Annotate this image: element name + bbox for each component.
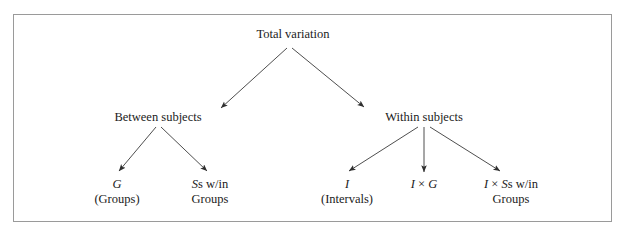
- node-i-by-ss-caption: Groups: [484, 192, 538, 207]
- symbol-g: G: [428, 177, 437, 191]
- node-between-subjects: Between subjects: [114, 110, 201, 125]
- symbol-g: G: [112, 177, 121, 191]
- node-intervals: I (Intervals): [321, 177, 373, 207]
- node-intervals-symbol-line: I: [321, 177, 373, 192]
- node-groups-symbol-line: G: [94, 177, 139, 192]
- node-within-subjects: Within subjects: [385, 110, 463, 125]
- node-i-by-ss-symbol-line: I × Ss w/in: [484, 177, 538, 192]
- node-intervals-caption: (Intervals): [321, 192, 373, 207]
- node-within-subjects-label: Within subjects: [385, 110, 463, 125]
- node-ss-within-groups: Ss w/in Groups: [192, 177, 229, 207]
- multiplication-sign: ×: [415, 177, 428, 191]
- node-total-variation: Total variation: [256, 27, 329, 42]
- node-ss-within-suffix: s w/in: [198, 177, 228, 191]
- node-groups: G (Groups): [94, 177, 139, 207]
- symbol-i: I: [345, 177, 349, 191]
- node-i-by-g-symbol-line: I × G: [411, 177, 438, 192]
- node-i-by-ss-within-groups: I × Ss w/in Groups: [484, 177, 538, 207]
- node-i-by-g: I × G: [411, 177, 438, 192]
- node-i-by-ss-suffix: s w/in: [508, 177, 538, 191]
- node-ss-within-symbol-line: Ss w/in: [192, 177, 229, 192]
- multiplication-sign: ×: [488, 177, 501, 191]
- node-ss-within-caption: Groups: [192, 192, 229, 207]
- variance-partition-figure: Total variation Between subjects Within …: [0, 0, 626, 237]
- node-total-variation-label: Total variation: [256, 27, 329, 42]
- node-groups-caption: (Groups): [94, 192, 139, 207]
- node-between-subjects-label: Between subjects: [114, 110, 201, 125]
